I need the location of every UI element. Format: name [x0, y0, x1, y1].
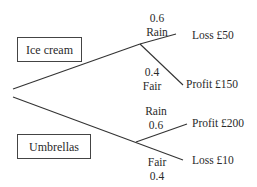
result-label: Loss £50	[192, 30, 234, 42]
probability-label: 0.4	[147, 171, 167, 183]
condition-label: Fair	[143, 157, 171, 169]
condition-label: Fair	[138, 81, 166, 93]
branch-ice-cream-fair	[140, 44, 183, 85]
result-label: Profit £200	[192, 118, 244, 130]
condition-label: Rain	[139, 106, 173, 118]
option-box-umbrellas: Umbrellas	[17, 134, 91, 159]
condition-label: Rain	[140, 27, 174, 39]
probability-label: 0.4	[142, 67, 162, 79]
result-label: Profit £150	[186, 79, 238, 91]
result-label: Loss £10	[192, 155, 234, 167]
option-label: Umbrellas	[29, 141, 79, 153]
option-label: Ice cream	[26, 44, 73, 56]
probability-label: 0.6	[147, 13, 167, 25]
probability-label: 0.6	[146, 120, 166, 132]
option-box-ice-cream: Ice cream	[17, 37, 82, 62]
